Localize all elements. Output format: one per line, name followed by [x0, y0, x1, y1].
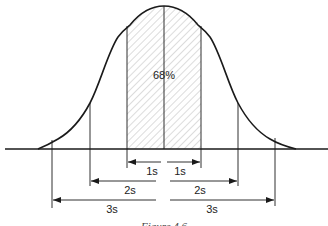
normal-curve-diagram: 68% 1s 1s 2s 2s 3s 3s Figure 4.6	[0, 0, 328, 226]
center-percent-label: 68%	[153, 69, 175, 81]
label-1s-left: 1s	[146, 165, 158, 177]
label-2s-left: 2s	[124, 184, 136, 196]
label-3s-left: 3s	[106, 203, 118, 215]
interval-arrows	[53, 162, 274, 200]
label-3s-right: 3s	[206, 203, 218, 215]
label-1s-right: 1s	[174, 165, 186, 177]
figure-caption: Figure 4.6	[140, 220, 188, 226]
label-2s-right: 2s	[194, 184, 206, 196]
